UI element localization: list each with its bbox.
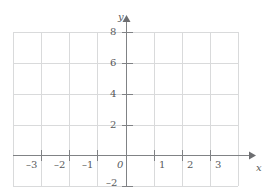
x-axis-label: x — [256, 163, 262, 173]
y-tick-label-4: 4 — [110, 89, 116, 99]
x-tick-label--1: –1 — [82, 160, 93, 170]
x-axis-arrowhead — [249, 152, 256, 160]
y-axis-ticks — [122, 33, 133, 187]
y-tick-label-8: 8 — [110, 27, 116, 37]
x-tick-label--3: –3 — [26, 160, 37, 170]
x-tick-label-3: 3 — [215, 160, 221, 170]
x-tick-label-2: 2 — [187, 160, 193, 170]
coordinate-grid-figure: 8 6 4 2 –2 –3 –2 –1 1 2 3 0 y x — [0, 0, 276, 195]
x-tick-label--2: –2 — [54, 160, 65, 170]
y-axis-label: y — [118, 12, 124, 22]
horizontal-gridlines — [13, 33, 238, 187]
graph-canvas — [0, 0, 276, 195]
y-axis — [123, 15, 131, 186]
y-tick-label-6: 6 — [110, 58, 116, 68]
y-tick-label--2: –2 — [106, 178, 117, 188]
origin-label: 0 — [117, 160, 123, 170]
y-tick-label-2: 2 — [110, 120, 116, 130]
x-tick-label-1: 1 — [159, 160, 165, 170]
